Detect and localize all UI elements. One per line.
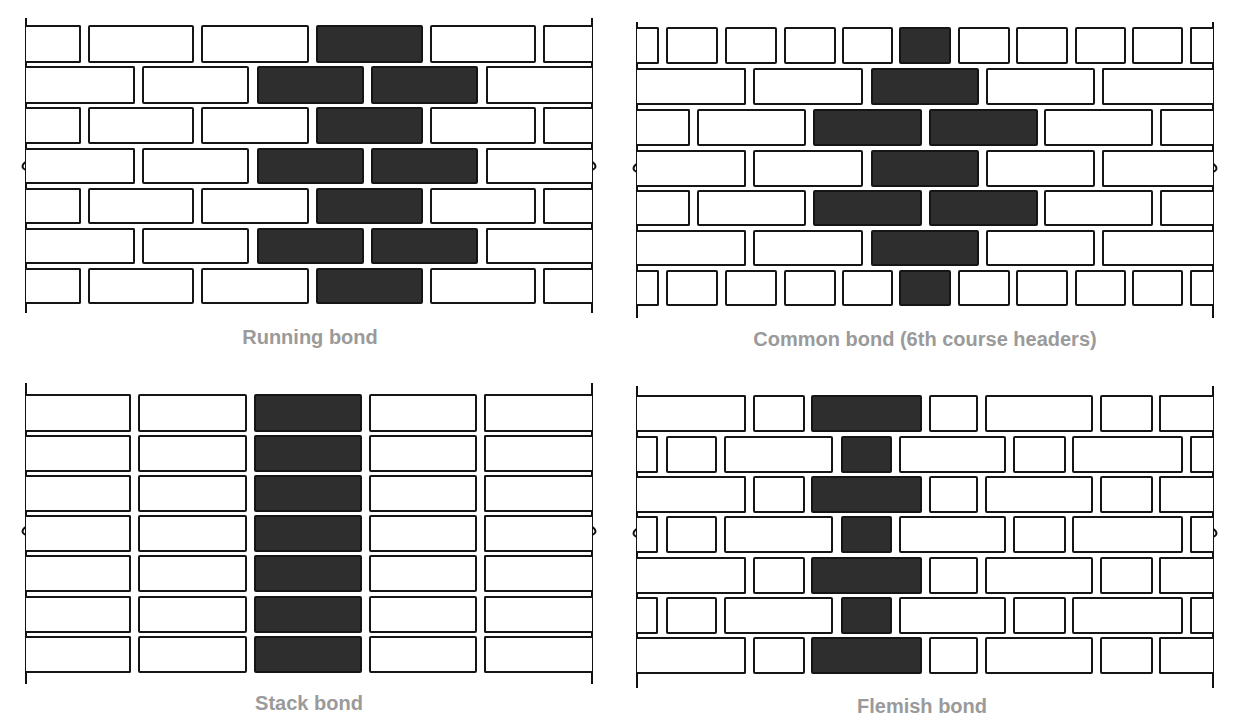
brick [484, 596, 592, 633]
brick [26, 228, 135, 264]
brick [1102, 230, 1213, 266]
brick [637, 557, 746, 594]
highlighted-brick [257, 66, 364, 104]
brick [666, 27, 718, 64]
brick [486, 228, 592, 264]
brick [484, 394, 592, 432]
brick [369, 435, 477, 472]
brick [985, 476, 1093, 513]
brick [26, 555, 131, 592]
brick [986, 230, 1095, 266]
brick [1100, 637, 1153, 674]
brick [637, 109, 690, 146]
brick [1013, 516, 1066, 553]
brick [637, 395, 746, 432]
brick [484, 555, 592, 592]
highlighted-brick [254, 515, 362, 552]
flemish-bond-caption: Flemish bond [672, 695, 1172, 718]
brick [929, 637, 978, 674]
brick [543, 268, 592, 304]
highlighted-brick [371, 228, 478, 264]
highlighted-brick [254, 596, 362, 633]
brick [369, 394, 477, 432]
brick [88, 188, 194, 224]
brick [985, 557, 1093, 594]
brick [369, 475, 477, 512]
brick [1160, 109, 1213, 146]
brick [725, 27, 777, 64]
brick [26, 636, 131, 673]
brick [753, 68, 863, 105]
highlighted-brick [929, 109, 1038, 146]
highlighted-brick [813, 109, 922, 146]
highlighted-brick [811, 395, 922, 432]
brick [1072, 516, 1183, 553]
highlighted-brick [871, 68, 979, 105]
brick [201, 268, 309, 304]
brick [26, 268, 81, 304]
highlighted-brick [871, 150, 979, 187]
highlighted-brick [811, 637, 922, 674]
brick [725, 270, 777, 306]
brick [724, 597, 833, 634]
brick [26, 394, 131, 432]
brick [26, 596, 131, 633]
brick [1190, 27, 1213, 64]
brick [430, 268, 536, 304]
highlighted-brick [371, 66, 478, 104]
brick [1160, 190, 1213, 226]
highlighted-brick [257, 148, 364, 184]
highlighted-brick [841, 597, 892, 634]
brick [666, 270, 718, 306]
brick [985, 395, 1093, 432]
brick [26, 107, 81, 144]
running-bond-caption: Running bond [60, 326, 560, 349]
highlighted-brick [316, 25, 423, 63]
brick [1072, 597, 1183, 634]
brick [753, 395, 805, 432]
brick [697, 109, 806, 146]
brick [1044, 109, 1153, 146]
brick [958, 270, 1010, 306]
brick [138, 515, 247, 552]
brick [666, 436, 717, 473]
brick [753, 637, 805, 674]
brick [637, 27, 659, 64]
brick [753, 150, 863, 187]
brick [88, 107, 194, 144]
brick [26, 148, 135, 184]
brick [929, 395, 978, 432]
brick [484, 435, 592, 472]
brick [1159, 637, 1213, 674]
highlighted-brick [929, 190, 1038, 226]
brick [666, 516, 717, 553]
brick [1044, 190, 1153, 226]
highlighted-brick [371, 148, 478, 184]
highlighted-brick [316, 188, 423, 224]
highlighted-brick [841, 436, 892, 473]
brick [138, 636, 247, 673]
highlighted-brick [254, 394, 362, 432]
highlighted-brick [254, 435, 362, 472]
brick [1100, 476, 1153, 513]
brick [637, 516, 658, 553]
brick [899, 436, 1006, 473]
brick [1102, 150, 1213, 187]
brick [142, 148, 249, 184]
brick [138, 555, 247, 592]
highlighted-brick [811, 557, 922, 594]
brick [1013, 436, 1066, 473]
highlighted-brick [871, 230, 979, 266]
brick [138, 435, 247, 472]
brick [697, 190, 806, 226]
brick [753, 557, 805, 594]
brick [724, 516, 833, 553]
brick [26, 25, 81, 63]
brick [899, 597, 1006, 634]
brick [142, 66, 249, 104]
brick [369, 515, 477, 552]
brick [1102, 68, 1213, 105]
brick [724, 436, 833, 473]
brick [430, 107, 536, 144]
brick [201, 107, 309, 144]
